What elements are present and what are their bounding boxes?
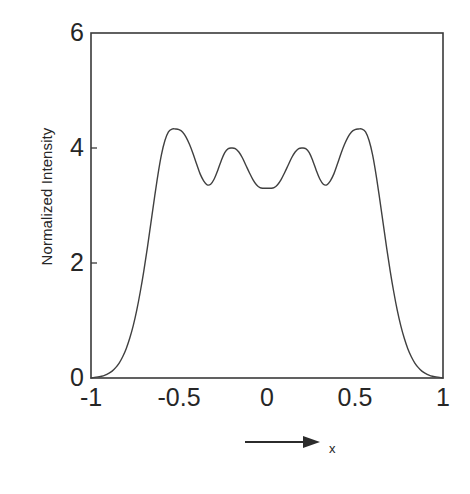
x-tick-label-0-5: 0.5 (310, 385, 400, 410)
y-tick-label-6: 6 (44, 20, 84, 45)
x-tick-label-minus-0-5: -0.5 (134, 385, 224, 410)
chart-figure: 6 4 2 0 -1 -0.5 0 0.5 1 Normalized Inten… (0, 0, 470, 494)
y-tick-marks (91, 148, 97, 263)
x-tick-label-0: 0 (222, 385, 312, 410)
plot-canvas (0, 0, 470, 494)
x-axis-arrow-label: x (329, 442, 336, 455)
x-tick-label-minus-1: -1 (46, 385, 136, 410)
intensity-curve (91, 129, 443, 378)
x-tick-label-1: 1 (398, 385, 470, 410)
plot-frame (91, 33, 443, 378)
x-direction-arrow (245, 436, 320, 448)
y-axis-title: Normalized Intensity (38, 97, 55, 297)
